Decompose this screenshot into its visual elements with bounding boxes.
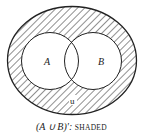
set-a-label: A (43, 56, 51, 67)
universe-label: u (70, 96, 75, 106)
set-b-label: B (98, 56, 104, 67)
venn-diagram: A B u (0, 0, 143, 138)
caption: (A ∪ B)′: SHADED (0, 121, 143, 132)
caption-word: SHADED (75, 123, 107, 132)
caption-expression: (A ∪ B)′: (36, 121, 72, 132)
